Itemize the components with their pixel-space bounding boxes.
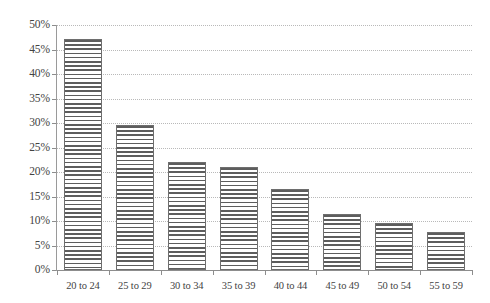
y-axis-labels: 0%5%10%15%20%25%30%35%40%45%50% <box>0 0 50 303</box>
bar <box>220 167 258 270</box>
x-axis-tick-label: 40 to 44 <box>265 280 317 292</box>
y-axis-tick-label: 15% <box>2 191 50 203</box>
x-axis-tick <box>161 270 162 275</box>
x-axis-tick <box>472 270 473 275</box>
bar <box>116 125 154 270</box>
bar <box>323 214 361 270</box>
bar <box>375 223 413 270</box>
gridline-45 <box>57 50 472 51</box>
bar <box>271 189 309 270</box>
x-axis-tick-label: 30 to 34 <box>161 280 213 292</box>
y-axis-tick-label: 35% <box>2 93 50 105</box>
y-axis-tick-label: 30% <box>2 117 50 129</box>
x-axis-tick <box>420 270 421 275</box>
bar <box>168 162 206 270</box>
gridline-50 <box>57 25 472 26</box>
x-axis-tick <box>109 270 110 275</box>
gridline-40 <box>57 74 472 75</box>
x-axis-tick <box>265 270 266 275</box>
x-axis-tick-label: 50 to 54 <box>368 280 420 292</box>
x-axis-tick <box>57 270 58 275</box>
x-axis-tick-label: 55 to 59 <box>420 280 472 292</box>
y-axis-tick-label: 40% <box>2 68 50 80</box>
bar-chart: 0%5%10%15%20%25%30%35%40%45%50% 20 to 24… <box>0 0 490 303</box>
x-axis-tick <box>368 270 369 275</box>
y-axis-tick-label: 10% <box>2 215 50 227</box>
x-axis-tick-label: 35 to 39 <box>213 280 265 292</box>
gridline-35 <box>57 99 472 100</box>
x-axis-tick-label: 25 to 29 <box>109 280 161 292</box>
x-axis-tick-label: 20 to 24 <box>57 280 109 292</box>
y-axis-tick-label: 0% <box>2 264 50 276</box>
bar <box>64 39 102 270</box>
y-axis-tick-label: 45% <box>2 44 50 56</box>
x-axis-tick-label: 45 to 49 <box>316 280 368 292</box>
y-axis-tick-label: 50% <box>2 19 50 31</box>
bar <box>427 232 465 270</box>
gridline-30 <box>57 123 472 124</box>
y-axis-tick-label: 5% <box>2 240 50 252</box>
y-axis-tick-label: 25% <box>2 142 50 154</box>
x-axis-tick <box>213 270 214 275</box>
y-axis-tick-label: 20% <box>2 166 50 178</box>
x-axis-tick <box>316 270 317 275</box>
